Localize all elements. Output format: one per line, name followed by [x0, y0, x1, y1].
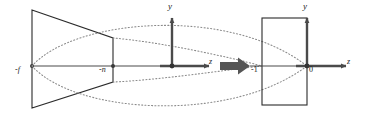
- transform-arrow-group: [220, 58, 250, 75]
- label-minus-n: -n: [99, 66, 106, 74]
- label-z-middle: z: [209, 58, 212, 66]
- diagram-canvas: [0, 0, 365, 118]
- projection-diagram: -f -n -1 0 y y z z: [0, 0, 365, 118]
- label-z-right: z: [347, 58, 350, 66]
- label-zero: 0: [309, 66, 313, 74]
- lower-dotted-curve: [32, 66, 307, 106]
- view-frustum: [32, 10, 113, 108]
- right-axes-group: [250, 18, 346, 68]
- middle-origin-point: [170, 64, 175, 69]
- view-frustum-group: [32, 10, 113, 108]
- near-plane-point: [111, 64, 115, 68]
- label-y-middle: y: [168, 2, 172, 11]
- transform-arrow: [220, 58, 250, 75]
- label-y-right: y: [303, 2, 307, 11]
- label-minus-one: -1: [251, 66, 258, 74]
- left-axis-group: [30, 64, 162, 68]
- label-minus-f: -f: [15, 66, 20, 74]
